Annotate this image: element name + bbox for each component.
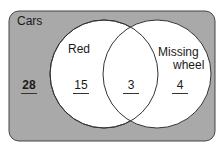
set-label-red: Red — [68, 43, 90, 56]
set-label-wheel: wheel — [173, 59, 204, 72]
count-outside: 28 — [17, 79, 41, 92]
count-red-only: 15 — [69, 79, 93, 92]
underline-outside — [21, 93, 37, 94]
underline-red-only — [73, 93, 89, 94]
count-both: 3 — [119, 79, 143, 92]
count-missing-wheel-only: 4 — [168, 79, 192, 92]
universe-label: Cars — [17, 15, 42, 28]
missing-wheel-circle — [103, 20, 211, 128]
underline-both — [123, 93, 139, 94]
underline-missing-wheel-only — [172, 93, 188, 94]
